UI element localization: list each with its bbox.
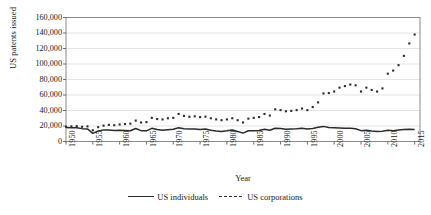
legend-item: US corporations <box>218 191 302 202</box>
x-tick-label: 1980 <box>230 130 238 147</box>
x-tick-label: 1955 <box>96 130 104 147</box>
solid-line-icon <box>128 193 154 201</box>
dotted-line-icon <box>218 193 244 201</box>
x-tick-label: 1975 <box>203 130 211 147</box>
x-tick-label: 2010 <box>391 130 399 147</box>
x-tick-label: 1985 <box>257 130 265 147</box>
legend-label: US corporations <box>247 192 302 202</box>
x-tick-label: 1960 <box>123 130 131 147</box>
x-tick-label: 1965 <box>150 130 158 147</box>
legend-label: US individuals <box>157 192 208 202</box>
chart-legend: US individualsUS corporations <box>0 190 431 202</box>
x-tick-label: 1995 <box>311 130 319 147</box>
x-axis-title: Year <box>66 173 420 183</box>
x-tick-label: 2005 <box>364 130 372 147</box>
x-tick-label: 2000 <box>337 130 345 147</box>
x-tick-label: 1990 <box>284 130 292 147</box>
x-tick-label: 2015 <box>418 130 426 147</box>
x-tick-label: 1950 <box>69 130 77 147</box>
patents-chart-figure: US patents issued 020,00040,00060,00080,… <box>0 0 431 215</box>
legend-item: US individuals <box>128 191 208 202</box>
x-tick-label: 1970 <box>176 130 184 147</box>
